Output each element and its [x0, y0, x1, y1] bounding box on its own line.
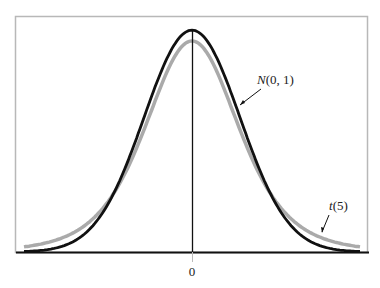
zero-tick-label: 0 — [189, 264, 196, 279]
normal-label-args: (0, 1) — [266, 72, 294, 87]
t-arrowhead — [321, 227, 324, 233]
plot-frame — [16, 17, 368, 253]
t-label-args: (5) — [333, 198, 348, 213]
normal-arrowhead — [240, 100, 245, 105]
t-label: t(5) — [329, 198, 348, 213]
normal-label: N(0, 1) — [256, 72, 294, 87]
chart: 0 N(0, 1) t(5) — [0, 0, 380, 288]
